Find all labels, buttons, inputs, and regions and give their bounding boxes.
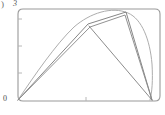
plot-canvas <box>0 0 165 115</box>
origin-tick-label: 0 <box>3 95 7 103</box>
y-axis-top-tick-label: 3 <box>13 0 17 8</box>
series-polyline-1 <box>18 12 152 100</box>
corner-glyph: ) <box>1 0 4 9</box>
figure-container: ) 3 0 <box>0 0 165 115</box>
series-smooth-curve <box>18 10 152 100</box>
series-polyline-3 <box>89 26 152 100</box>
